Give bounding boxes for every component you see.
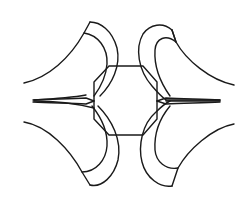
diagram-canvas	[0, 0, 251, 202]
lobe-lower-left	[24, 101, 119, 185]
lobe-upper-right	[139, 25, 234, 100]
diagram-svg	[0, 0, 251, 202]
lobe-upper-left	[24, 22, 118, 100]
lobe-lower-right	[141, 101, 234, 186]
